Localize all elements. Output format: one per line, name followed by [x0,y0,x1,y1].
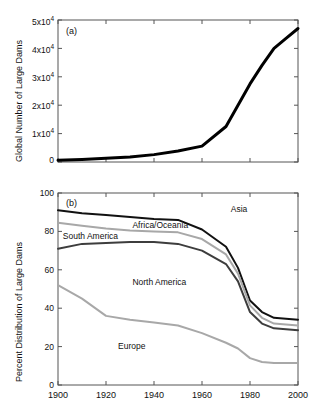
series-label-south-america: South America [63,231,118,241]
series-label-asia: Asia [231,204,248,214]
series-label-north-america: North America [132,277,186,287]
series-label-europe: Europe [118,341,145,351]
panel-b-plot [0,0,316,412]
series-label-africa-oceania: Africa/Oceania [132,220,188,230]
figure-container: Global Number of Large Dams (a) 5x104 4x… [0,0,316,412]
